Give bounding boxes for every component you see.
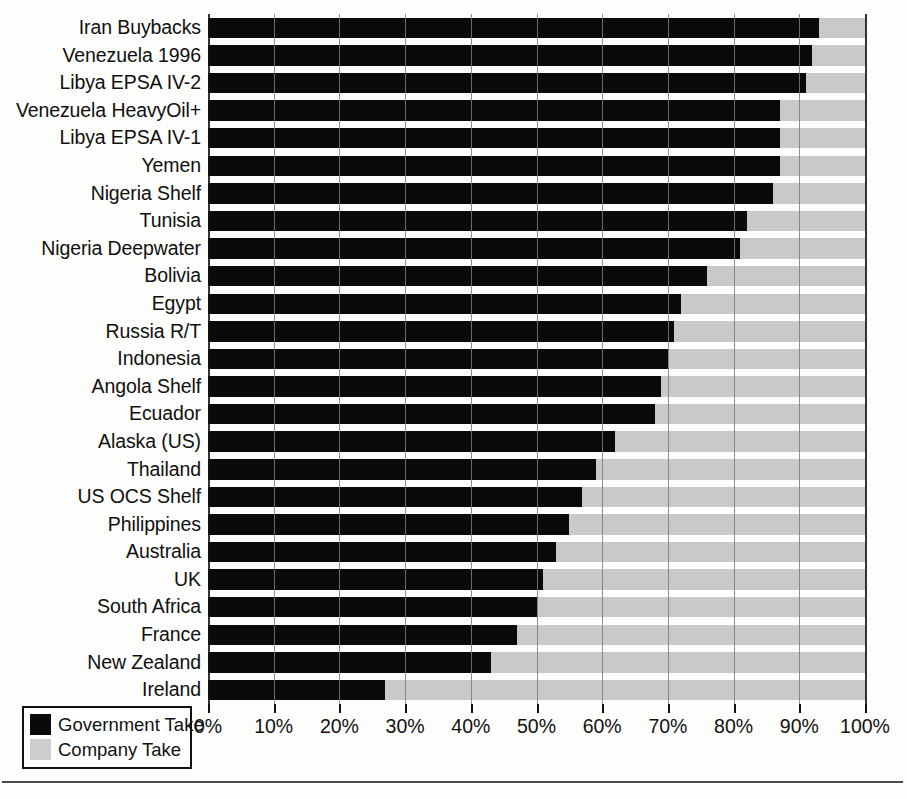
x-axis-tick [865, 704, 867, 713]
x-axis-tick-label: 90% [780, 715, 819, 738]
bar-row: Egypt [0, 290, 907, 318]
bar-row: US OCS Shelf [0, 483, 907, 511]
bar-row: New Zealand [0, 649, 907, 677]
category-label: Egypt [152, 290, 208, 318]
bar-company-take [208, 156, 865, 176]
figure: Iran BuybacksVenezuela 1996Libya EPSA IV… [0, 0, 907, 799]
legend-item: Company Take [30, 737, 184, 762]
bar-row: Ecuador [0, 400, 907, 428]
x-axis-tick [405, 704, 407, 713]
x-axis-tick-label: 60% [583, 715, 622, 738]
bar-row: Indonesia [0, 345, 907, 373]
x-axis-tick-label: 50% [517, 715, 556, 738]
bar-company-take [208, 487, 865, 507]
category-label: Yemen [142, 152, 209, 180]
bar-government-take [208, 100, 780, 120]
legend-label-company-take: Company Take [58, 739, 181, 761]
category-label: UK [174, 566, 208, 594]
legend-swatch-company-take [30, 739, 51, 760]
category-label: Australia [126, 538, 208, 566]
bar-row: Venezuela 1996 [0, 42, 907, 70]
x-axis-tick [537, 704, 539, 713]
bar-government-take [208, 652, 491, 672]
bar-company-take [208, 18, 865, 38]
category-label: Russia R/T [106, 318, 208, 346]
bar-company-take [208, 294, 865, 314]
category-label: Bolivia [144, 262, 208, 290]
bar-row: South Africa [0, 593, 907, 621]
bar-company-take [208, 183, 865, 203]
category-label: Venezuela 1996 [63, 42, 208, 70]
bar-government-take [208, 376, 661, 396]
x-axis-tick [602, 704, 604, 713]
legend-label-government-take: Government Take [58, 714, 204, 736]
x-axis-tick [799, 704, 801, 713]
bar-government-take [208, 266, 707, 286]
bar-government-take [208, 487, 582, 507]
bar-government-take [208, 128, 780, 148]
x-axis: 0%10%20%30%40%50%60%70%80%90%100% [208, 704, 867, 705]
bar-company-take [208, 238, 865, 258]
category-label: Philippines [108, 511, 208, 539]
x-axis-tick [668, 704, 670, 713]
x-axis-tick [339, 704, 341, 713]
category-label: Tunisia [140, 207, 208, 235]
bar-government-take [208, 321, 674, 341]
category-label: Venezuela HeavyOil+ [16, 97, 208, 125]
bar-government-take [208, 238, 740, 258]
bar-row: France [0, 621, 907, 649]
category-label: Angola Shelf [92, 373, 208, 401]
x-axis-tick [734, 704, 736, 713]
bar-row: Iran Buybacks [0, 14, 907, 42]
bar-row: Australia [0, 538, 907, 566]
bar-government-take [208, 349, 668, 369]
legend-swatch-government-take [30, 714, 51, 735]
legend-item: Government Take [30, 712, 184, 737]
x-axis-tick [208, 704, 210, 713]
bar-government-take [208, 156, 780, 176]
bar-government-take [208, 404, 655, 424]
x-axis-tick-label: 30% [386, 715, 425, 738]
footer-divider [2, 781, 903, 783]
bar-row: Thailand [0, 456, 907, 484]
bar-row: Ireland [0, 676, 907, 704]
category-label: Alaska (US) [98, 428, 208, 456]
category-label: US OCS Shelf [78, 483, 208, 511]
bar-row: Tunisia [0, 207, 907, 235]
category-label: France [141, 621, 208, 649]
bar-government-take [208, 459, 596, 479]
bar-company-take [208, 321, 865, 341]
bar-company-take [208, 211, 865, 231]
bar-company-take [208, 652, 865, 672]
category-label: Libya EPSA IV-1 [59, 124, 208, 152]
bar-rows: Iran BuybacksVenezuela 1996Libya EPSA IV… [0, 14, 907, 704]
x-axis-tick-label: 100% [840, 715, 890, 738]
bar-government-take [208, 294, 681, 314]
bar-government-take [208, 73, 806, 93]
bar-government-take [208, 431, 615, 451]
bar-company-take [208, 73, 865, 93]
bar-company-take [208, 349, 865, 369]
bar-row: Philippines [0, 511, 907, 539]
category-label: Thailand [127, 456, 208, 484]
category-label: Nigeria Deepwater [41, 235, 208, 263]
x-axis-tick-label: 70% [648, 715, 687, 738]
bar-government-take [208, 542, 556, 562]
category-label: Ireland [142, 676, 208, 704]
bar-company-take [208, 128, 865, 148]
x-axis-tick [471, 704, 473, 713]
bar-government-take [208, 514, 569, 534]
category-label: Iran Buybacks [79, 14, 208, 42]
bar-government-take [208, 45, 812, 65]
bar-company-take [208, 542, 865, 562]
chart-legend: Government Take Company Take [22, 706, 192, 769]
bar-company-take [208, 100, 865, 120]
bar-company-take [208, 376, 865, 396]
bar-row: Angola Shelf [0, 373, 907, 401]
bar-row: Nigeria Deepwater [0, 235, 907, 263]
bar-company-take [208, 680, 865, 700]
category-label: Indonesia [117, 345, 208, 373]
bar-government-take [208, 597, 537, 617]
x-axis-tick-label: 80% [714, 715, 753, 738]
bar-row: Libya EPSA IV-2 [0, 69, 907, 97]
